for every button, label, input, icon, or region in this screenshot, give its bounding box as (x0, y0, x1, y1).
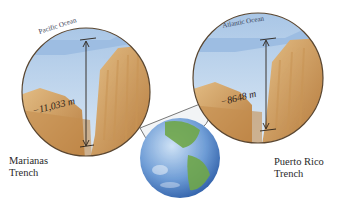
trench-diagram: Pacific Ocean Atlantic Ocean −11,033 m −… (0, 0, 346, 200)
trench-name-puerto-rico: Puerto Rico Trench (274, 156, 324, 180)
trench-name-marianas: Marianas Trench (9, 155, 48, 179)
marianas-inset (20, 20, 155, 161)
earth-globe-icon (140, 118, 220, 198)
